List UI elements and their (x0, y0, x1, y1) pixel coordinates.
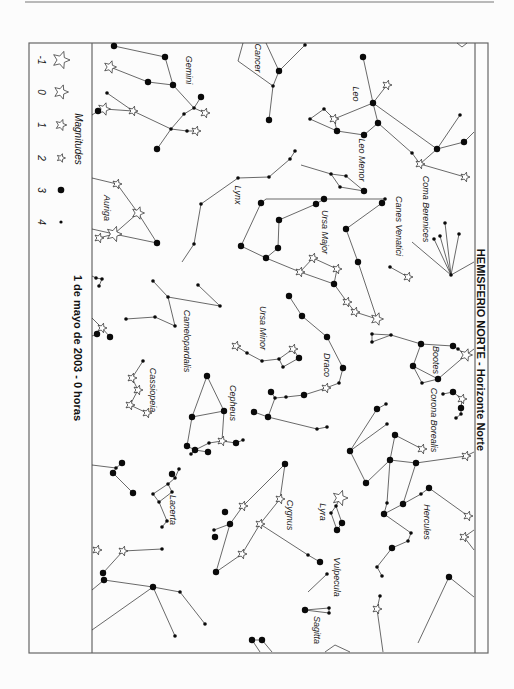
star-dot-icon (162, 54, 168, 60)
star-dot-icon (192, 447, 198, 453)
star-dot-icon (340, 365, 346, 371)
star-dot-icon (160, 525, 164, 529)
constellation-leo-minor-lines (301, 165, 364, 191)
star-dot-icon (236, 176, 240, 180)
constellation-line (266, 43, 305, 71)
star-dot-icon (276, 68, 282, 74)
constellation-andromeda-pegasus-partial-stars (93, 545, 207, 638)
star-dot-icon (276, 217, 282, 223)
star-icon (128, 373, 137, 383)
constellation-line (451, 234, 459, 275)
constellation-corona-borealis-lines (443, 392, 462, 418)
star-dot-icon (124, 317, 128, 321)
star-dot-icon (458, 113, 462, 117)
constellation-hercules-stars (347, 402, 473, 578)
star-dot-icon (238, 243, 244, 249)
constellation-label-lynx: Lynx (233, 186, 243, 205)
star-dot-icon (343, 226, 349, 232)
star-dot-icon (370, 100, 376, 106)
star-dot-icon (284, 395, 288, 399)
star-dot-icon (313, 201, 319, 207)
star-dot-icon (233, 440, 239, 446)
star-dot-icon (212, 528, 216, 532)
constellation-line (384, 463, 416, 514)
star-dot-icon (327, 611, 331, 615)
legend-title: Magnitudes (73, 113, 84, 165)
constellation-andromeda-pegasus-partial-lines (92, 549, 205, 636)
star-dot-icon (263, 255, 269, 261)
star-dot-icon (450, 389, 456, 395)
constellation-cygnus-lines (214, 464, 320, 572)
star-dot-icon (441, 392, 445, 396)
star-icon (296, 267, 305, 277)
constellation-label-gemini: Gemini (184, 56, 194, 86)
star-icon (95, 233, 104, 243)
star-dot-icon (303, 43, 307, 47)
star-icon (418, 444, 427, 454)
star-icon (289, 344, 298, 354)
legend-label: 1 (36, 122, 47, 128)
constellation-cancer-lines (238, 43, 305, 120)
constellation-line (187, 417, 192, 446)
constellation-line (216, 524, 260, 572)
constellation-vulpecula-stars (325, 572, 329, 576)
star-dot-icon (301, 392, 307, 398)
star-icon (458, 394, 467, 404)
constellation-line (113, 468, 133, 493)
legend-item-mag-0: 0 (36, 85, 69, 99)
star-dot-icon (178, 590, 182, 594)
star-dot-icon (114, 466, 118, 470)
star-dot-icon (334, 128, 340, 134)
constellation-line (377, 514, 411, 576)
legend-item-mag--1: -1 (36, 51, 71, 68)
legend-item-mag-4: 4 (36, 219, 63, 225)
constellation-label-bootes: Bootes (431, 346, 441, 375)
star-dot-icon (151, 492, 155, 496)
star-dot-icon (286, 293, 292, 299)
constellation-line (92, 580, 205, 624)
star-dot-icon (385, 501, 389, 505)
star-dot-icon (221, 408, 227, 414)
star-dot-icon (203, 622, 207, 626)
star-dot-icon (456, 347, 460, 351)
constellation-line (373, 103, 437, 164)
constellation-line (114, 46, 194, 108)
star-dot-icon (370, 340, 374, 344)
star-dot-icon (100, 277, 104, 281)
star-dot-icon (446, 574, 452, 580)
star-dot-icon (105, 91, 109, 95)
constellation-lines (92, 43, 474, 652)
constellation-lyra-stars (329, 490, 348, 533)
star-dot-icon (94, 331, 100, 337)
star-dot-icon (375, 120, 381, 126)
star-dot-icon (337, 381, 341, 385)
star-dot-icon (334, 504, 338, 508)
star-dot-icon (380, 574, 384, 578)
star-dot-icon (355, 259, 361, 265)
constellation-line (412, 242, 451, 275)
star-dot-icon (170, 490, 174, 494)
star-dot-icon (173, 476, 177, 480)
star-dot-icon (296, 355, 302, 361)
star-dot-icon (288, 157, 292, 161)
star-dot-icon (241, 438, 245, 442)
star-icon (256, 519, 265, 529)
star-dot-icon (321, 196, 327, 202)
star-dot-icon (306, 553, 310, 557)
star-dot-icon (177, 467, 181, 471)
constellation-label-hercules: Hercules (422, 504, 432, 540)
star-dot-icon (170, 82, 176, 88)
star-dot-icon (245, 351, 249, 355)
constellation-label-corona-borealis: Corona Borealis (429, 388, 439, 453)
constellation-line (126, 317, 175, 326)
constellation-label-sagitta: Sagitta (312, 616, 322, 644)
constellation-label-cancer: Cancer (253, 43, 263, 73)
legend-item-mag-2: 2 (36, 154, 66, 163)
constellation-line (363, 57, 387, 103)
star-dot-icon (410, 151, 414, 155)
legend-label: 0 (36, 89, 47, 95)
star-dot-icon (339, 520, 345, 526)
star-icon (105, 61, 117, 73)
star-dot-icon (325, 572, 329, 576)
constellation-left-group-stars (110, 460, 136, 496)
